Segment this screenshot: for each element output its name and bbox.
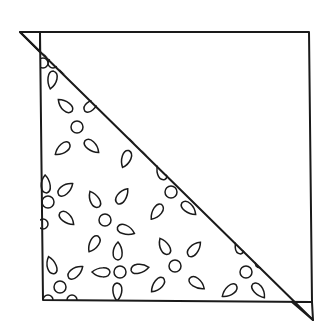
flower-center-circle xyxy=(99,214,111,226)
petal-shape xyxy=(113,186,131,206)
petal-shape xyxy=(156,236,173,256)
petal-shape xyxy=(66,263,86,281)
petal-shape xyxy=(92,268,110,277)
petal-shape xyxy=(57,209,77,227)
petal-shape xyxy=(250,281,268,301)
flower-motif xyxy=(85,186,136,254)
flower-center-circle xyxy=(114,266,126,278)
petal-shape xyxy=(187,274,207,292)
petal-shape xyxy=(148,202,166,222)
flower-center-circle xyxy=(42,196,54,208)
flower-center-circle xyxy=(169,260,181,272)
petal-shape xyxy=(220,282,240,300)
petal-shape xyxy=(85,234,102,254)
flower-center-circle xyxy=(165,186,177,198)
petal-shape xyxy=(44,255,59,275)
petal-shape xyxy=(130,262,149,274)
petal-shape xyxy=(53,140,73,158)
petal-shape xyxy=(56,180,76,198)
petal-shape xyxy=(185,239,203,259)
left-margin-mask xyxy=(0,0,40,330)
bottom-margin-mask xyxy=(0,300,334,330)
petal-shape xyxy=(113,242,122,260)
flower-center-circle xyxy=(240,266,252,278)
petal-shape xyxy=(55,96,75,114)
flower-motif xyxy=(44,255,85,293)
petal-shape xyxy=(86,189,103,209)
flower-center-circle xyxy=(71,121,83,133)
petal-shape xyxy=(119,149,134,169)
petal-shape xyxy=(46,70,58,89)
flower-motif xyxy=(92,242,150,301)
petal-shape xyxy=(113,283,122,301)
petal-shape xyxy=(116,223,136,238)
diagram-svg xyxy=(0,0,334,330)
petal-shape xyxy=(148,275,166,295)
quilt-block-diagram xyxy=(0,0,334,330)
flower-motif xyxy=(148,236,207,295)
flower-center-circle xyxy=(54,281,66,293)
edge-motifs xyxy=(0,0,334,330)
petal-shape xyxy=(82,137,102,155)
